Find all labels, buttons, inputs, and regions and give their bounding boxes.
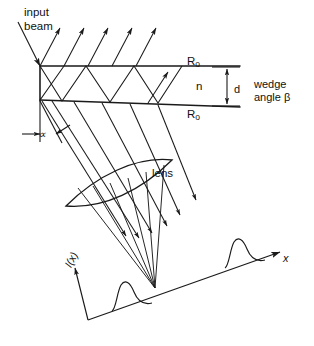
exit-ray-6 [148,72,168,103]
input-beam-label: inputbeam [24,6,53,33]
exit-ray-5 [136,28,156,66]
internal-reflection-paths [40,66,182,103]
wedge-line2: angle β [254,91,290,103]
exit-ray-3 [88,28,108,66]
transmitted-ray-2 [52,101,139,238]
wedge-line1: wedge [254,78,286,90]
converging-ray-2 [93,186,155,288]
intensity-plot-axes [75,252,280,320]
converging-rays-to-focus [78,165,164,288]
refractive-index-label: n [196,80,202,94]
alpha-angle-label: ∝ [38,128,46,141]
converging-ray-6 [155,165,164,288]
exit-ray-1 [40,28,60,66]
intensity-axis-line [75,268,88,320]
plate-surfaces [40,66,240,107]
fringe-peak-1 [112,282,152,311]
exit-ray-4 [112,28,132,66]
intensity-fringe-curves [112,239,265,311]
input-beam-line2: beam [24,20,53,32]
exit-ray-2 [64,28,84,66]
fringe-peak-2 [225,239,265,268]
input-beam-line1: input [24,6,49,18]
x-axis-label: x [283,252,289,265]
reflectivity-top-label: Ro [187,55,200,69]
thickness-label: d [234,83,240,96]
transmitted-ray-3 [74,102,152,233]
x-axis-line [88,252,280,320]
reflectivity-bottom-subscript: o [195,112,200,122]
reflectivity-top-subscript: o [195,59,200,69]
reflectivity-bottom-label: Ro [187,108,200,122]
optics-diagram-figure: inputbeam Ro n Ro d wedgeangle β lens ∝ … [0,0,314,346]
alpha-angle-marker [22,66,70,143]
bottom-plate-line [40,100,240,107]
wedge-angle-label: wedgeangle β [254,78,290,104]
zigzag-path [40,66,182,103]
lens-label: lens [152,167,173,181]
